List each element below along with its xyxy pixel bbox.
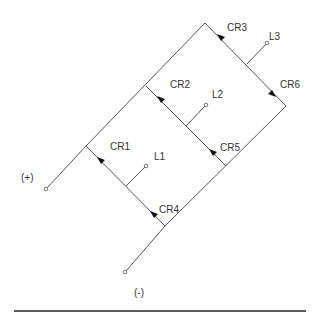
label-CR4: CR4 [159, 204, 179, 215]
diode-CR4-arrow-icon [150, 211, 158, 218]
label-minus: (-) [134, 287, 144, 298]
diode-CR3-arrow-icon [217, 34, 225, 41]
label-L2: L2 [212, 89, 224, 100]
wire-load-L1 [126, 167, 145, 186]
wire-load-L3 [247, 44, 266, 64]
wire-load-L2 [186, 106, 205, 126]
label-L1: L1 [154, 151, 166, 162]
wire-plus-lead [47, 146, 86, 188]
diode-CR5-arrow-icon [209, 149, 217, 156]
label-L3: L3 [269, 31, 281, 42]
diode-CR6-arrow-icon [268, 90, 276, 97]
diode-CR2-arrow-icon [157, 96, 165, 103]
label-CR1: CR1 [110, 141, 130, 152]
L2-terminal [204, 103, 208, 107]
wire-minus-lead [126, 226, 165, 271]
label-CR6: CR6 [280, 79, 300, 90]
label-CR2: CR2 [170, 79, 190, 90]
circuit-diagram: CR3 L3 CR6 CR2 L2 CR5 CR1 L1 CR4 (+) (-) [0, 0, 315, 317]
L1-terminal [144, 164, 148, 168]
label-plus: (+) [21, 172, 34, 183]
minus-terminal [123, 270, 127, 274]
label-CR5: CR5 [220, 142, 240, 153]
label-CR3: CR3 [227, 22, 247, 33]
diode-CR1-arrow-icon [97, 157, 105, 164]
plus-terminal [44, 187, 48, 191]
